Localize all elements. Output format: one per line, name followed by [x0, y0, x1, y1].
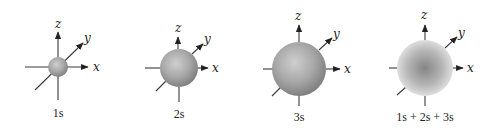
caption-3s: 3s: [294, 110, 305, 124]
sphere-combined: [397, 40, 453, 96]
y-axis: [319, 38, 332, 50]
x-label: x: [212, 61, 219, 75]
y-axis-neg: [272, 87, 281, 96]
z-label: z: [54, 17, 62, 31]
orbital-figure: z x y 1s z x y 2s z x y 3s: [0, 0, 491, 131]
x-label: x: [93, 60, 100, 74]
z-label: z: [294, 9, 302, 23]
sphere-3s: [272, 42, 326, 96]
y-label: y: [83, 31, 91, 45]
orbital-2s: z x y 2s: [145, 21, 219, 121]
y-label: y: [203, 32, 211, 46]
orbital-sum: z x y 1s + 2s + 3s: [389, 8, 474, 124]
orbital-3s: z x y 3s: [263, 9, 351, 124]
z-label: z: [420, 8, 428, 22]
caption-sum: 1s + 2s + 3s: [396, 110, 454, 124]
caption-1s: 1s: [53, 106, 64, 120]
y-axis-neg: [397, 87, 406, 95]
orbital-1s: z x y 1s: [25, 17, 100, 120]
y-axis: [445, 37, 457, 48]
y-axis: [192, 44, 203, 54]
z-label: z: [174, 21, 182, 35]
sphere-1s: [48, 57, 68, 77]
x-label: x: [344, 62, 351, 76]
y-axis-neg: [156, 81, 166, 91]
y-label: y: [332, 27, 340, 41]
caption-2s: 2s: [174, 107, 185, 121]
y-label: y: [457, 26, 465, 40]
x-label: x: [467, 61, 474, 75]
sphere-2s: [160, 49, 198, 87]
